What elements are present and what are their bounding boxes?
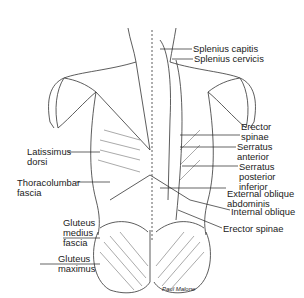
label-erector-spinae-lower: Erector spinae [223,224,283,234]
label-gluteus-maximus: Gluteusmaximus [58,254,96,274]
anatomy-figure: Splenius capitis Splenius cervicis Erect… [0,0,304,298]
label-serratus-anterior: Serratusanterior [237,142,272,162]
label-splenius-cervicis: Splenius cervicis [194,54,264,64]
label-gluteus-medius-fascia: Gluteusmediusfascia [63,218,95,248]
label-erector-spinae-upper: Erectorspinae [241,122,271,142]
label-internal-oblique: Internal oblique [231,207,295,217]
artist-signature: Paul Malone [162,284,195,294]
label-latissimus-dorsi: Latissimusdorsi [27,147,71,167]
label-thoracolumbar-fascia: Thoracolumbarfascia [17,178,80,198]
